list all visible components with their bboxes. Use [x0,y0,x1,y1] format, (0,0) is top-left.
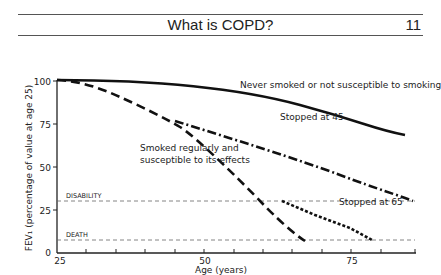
x-axis-label: Age (years) [195,265,247,275]
x-tick-25: 25 [54,256,65,266]
y-tick-50: 50 [40,163,52,173]
y-tick-25: 25 [40,206,51,216]
x-tick-75: 75 [346,256,357,266]
death-label: DEATH [66,231,88,239]
label-stopped-45: Stopped at 45 [280,112,344,122]
label-never-smoked: Never smoked or not susceptible to smoki… [240,80,441,90]
label-smoked-line2: susceptible to its effects [140,155,250,165]
y-tick-0: 0 [45,248,51,258]
label-smoked-line1: Smoked regularly and [140,143,239,153]
fev1-chart: 100 75 50 25 0 25 50 75 Age (years) FEV₁… [0,0,441,275]
disability-label: DISABILITY [66,192,102,200]
y-axis-label: FEV₁ (percentage of value at age 25) [24,85,34,252]
label-stopped-65: Stopped at 65 [339,197,403,207]
y-tick-100: 100 [34,77,51,87]
y-tick-75: 75 [40,120,51,130]
